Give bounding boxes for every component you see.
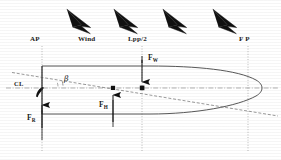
label-centerline: CL [14,81,23,88]
label-wind: Wind [78,36,95,43]
wind-arrow-icon [61,9,95,34]
wind-arrow-icon [157,9,191,34]
label-hydrodynamic-force: FH [99,101,108,110]
label-fp: F P [239,36,250,43]
label-hydrodynamic-force-sub: H [104,104,108,110]
hull-outline [42,66,262,114]
hydrodynamic-force-vector [111,86,115,127]
label-lpp2: Lpp/2 [128,36,147,43]
wind-arrow-group [61,9,241,34]
label-rudder-force: FR [27,114,36,123]
label-wind-force-sub: W [153,57,158,63]
hydrodynamic-force-point [111,86,115,90]
centerline-marker [36,87,44,97]
drift-angle-arc [57,81,63,86]
wind-arrow-icon [207,9,241,34]
wind-arrow-icon [108,9,142,34]
ship-force-diagram: AP Wind Lpp/2 F P CL β FW FH FR [0,0,281,160]
label-wind-force: FW [148,54,158,63]
wind-force-point [140,86,145,91]
label-drift-angle-beta: β [64,75,69,83]
drift-axis-line [12,73,278,117]
label-ap: AP [30,36,40,43]
station-lines [42,46,248,152]
diagram-canvas [0,0,281,160]
label-rudder-force-sub: R [32,117,36,123]
